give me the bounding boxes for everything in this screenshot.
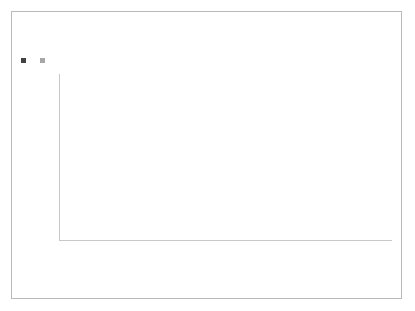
plot-area	[59, 74, 392, 241]
legend-item-esg-mandated	[21, 58, 29, 63]
legend-swatch-icon	[21, 58, 26, 63]
chart-card	[11, 11, 402, 299]
legend-item-non-esg-mandated	[40, 58, 48, 63]
x-axis-labels	[59, 243, 392, 255]
chart-legend	[21, 58, 48, 63]
legend-swatch-icon	[40, 58, 45, 63]
bar-group	[59, 74, 392, 241]
